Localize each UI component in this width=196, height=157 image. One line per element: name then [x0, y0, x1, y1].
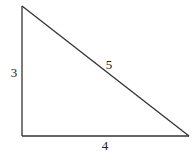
hypotenuse-label: 5 — [106, 57, 113, 72]
right-triangle-diagram: 3 5 4 — [0, 0, 196, 157]
vertical-leg-label: 3 — [11, 65, 18, 80]
horizontal-leg-label: 4 — [102, 138, 109, 153]
